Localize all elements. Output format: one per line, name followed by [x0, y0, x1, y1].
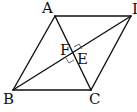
label-d: I — [132, 0, 137, 18]
label-f: F — [60, 41, 70, 59]
geometry-diagram: A I B C F E — [0, 0, 137, 112]
label-a: A — [41, 0, 53, 17]
diagonal-bd — [13, 16, 131, 90]
label-c: C — [89, 90, 100, 108]
side-ba — [13, 16, 55, 90]
label-e: E — [77, 50, 88, 68]
label-b: B — [3, 90, 14, 108]
side-dc — [91, 16, 131, 90]
